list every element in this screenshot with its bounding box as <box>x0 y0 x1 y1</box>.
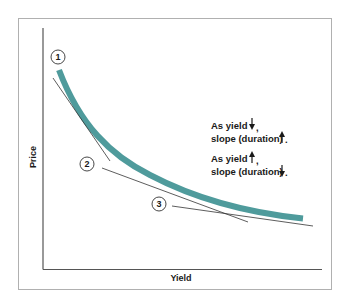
note-2-line-1: As yield <box>211 153 248 164</box>
note-2-line-2: slope (duration) <box>211 166 283 177</box>
note-1-comma: , <box>256 122 259 133</box>
marker-3-label: 3 <box>156 199 161 209</box>
marker-1: 1 <box>51 50 65 64</box>
note-2-comma: , <box>256 155 259 166</box>
y-axis-label: Price <box>28 146 38 168</box>
marker-2-label: 2 <box>84 159 89 169</box>
price-yield-diagram: Price Yield 1 2 3 As yield , slope (dura… <box>0 0 349 301</box>
figure-frame <box>19 19 332 290</box>
note-1-period: . <box>285 134 288 145</box>
marker-3: 3 <box>152 197 166 211</box>
marker-2: 2 <box>80 157 94 171</box>
marker-1-label: 1 <box>55 52 60 62</box>
x-axis-label: Yield <box>170 273 191 283</box>
note-1-line-2: slope (duration) <box>211 133 283 144</box>
note-2-period: . <box>285 167 288 178</box>
note-1-line-1: As yield <box>211 120 248 131</box>
